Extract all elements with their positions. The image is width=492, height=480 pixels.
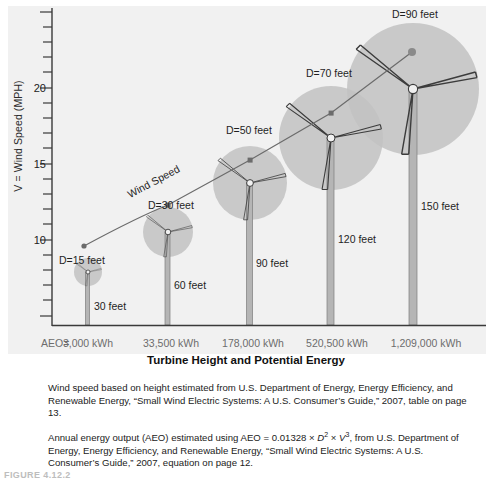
note-aeo-text-mid: ×: [328, 432, 339, 443]
rotor-diameter-label-4: D=70 feet: [306, 67, 352, 79]
rotor-diameter-label-1: D=15 feet: [59, 254, 105, 266]
tower-height-label-1: 30 feet: [94, 300, 126, 312]
note-aeo-equation: Annual energy output (AEO) estimated usi…: [48, 429, 472, 470]
tower-3: [247, 183, 253, 325]
wind-speed-marker-5: [408, 48, 416, 56]
aeo-value-4: 520,500 kWh: [295, 337, 379, 349]
rotor-diameter-label-3: D=50 feet: [226, 124, 272, 136]
tower-height-label-3: 90 feet: [256, 257, 288, 269]
tower-height-label-5: 150 feet: [421, 200, 459, 212]
figure-root: V = Wind Speed (MPH) 20 15 10 Wind Speed…: [0, 0, 492, 480]
y-tick-label-10: 10: [22, 234, 46, 246]
wind-speed-marker-4: [329, 111, 334, 116]
figure-notes: Wind speed based on height estimated fro…: [48, 382, 472, 479]
wind-speed-marker-1: [81, 243, 86, 248]
aeo-value-2: 33,500 kWh: [133, 337, 209, 349]
aeo-value-5: 1,209,000 kWh: [378, 337, 474, 349]
note-aeo-text-a: Annual energy output (AEO) estimated usi…: [48, 432, 317, 443]
y-axis-title: V = Wind Speed (MPH): [12, 56, 24, 216]
tower-4: [327, 138, 334, 325]
figure-caption-tag: FIGURE 4.12.2: [4, 470, 71, 480]
aeo-value-3: 178,000 kWh: [213, 337, 293, 349]
rotor-diameter-label-2: D=30 feet: [148, 199, 194, 211]
rotor-diameter-label-5: D=90 feet: [392, 8, 438, 20]
note-wind-speed-source: Wind speed based on height estimated fro…: [48, 382, 472, 420]
y-tick-label-20: 20: [22, 82, 46, 94]
chart-title: Turbine Height and Potential Energy: [0, 354, 492, 366]
wind-speed-marker-3: [248, 158, 253, 163]
tower-height-label-2: 60 feet: [174, 279, 206, 291]
y-tick-label-15: 15: [22, 158, 46, 170]
rotor-disc-group: [74, 23, 479, 286]
tower-height-label-4: 120 feet: [338, 233, 376, 245]
aeo-value-1: 3,000 kWh: [52, 337, 124, 349]
